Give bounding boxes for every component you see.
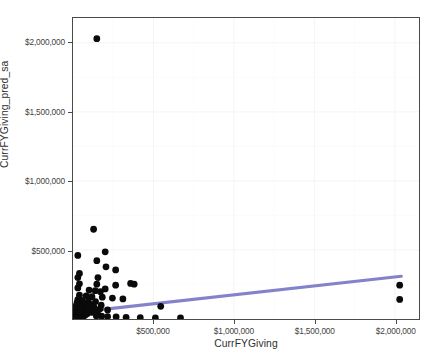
data-point xyxy=(93,257,100,264)
x-tick-mark xyxy=(234,320,235,324)
data-point xyxy=(95,274,102,281)
data-point xyxy=(74,285,81,292)
data-point xyxy=(90,226,97,233)
x-tick-mark xyxy=(396,320,397,324)
data-point xyxy=(102,248,109,255)
x-tick-mark xyxy=(153,320,154,324)
data-point xyxy=(112,267,119,274)
data-point xyxy=(84,303,91,310)
data-point xyxy=(396,282,403,289)
data-point xyxy=(103,263,110,270)
plot-panel xyxy=(72,17,420,320)
x-axis-title: CurrFYGiving xyxy=(214,338,278,349)
data-point xyxy=(86,287,93,294)
data-point xyxy=(177,315,184,320)
scatter-chart: CurrFYGiving_pred_sa CurrFYGiving $500,0… xyxy=(0,0,444,360)
data-point xyxy=(97,305,104,312)
y-axis-title: CurrFYGiving_pred_sa xyxy=(0,61,10,168)
data-point xyxy=(152,314,159,320)
data-point xyxy=(157,303,164,310)
data-point xyxy=(112,282,119,289)
data-point xyxy=(131,281,138,288)
data-point xyxy=(90,303,97,310)
data-point xyxy=(137,314,144,320)
data-point xyxy=(74,252,81,259)
data-point xyxy=(93,281,100,288)
y-tick-label: $1,000,000 xyxy=(25,176,65,186)
data-point xyxy=(93,35,100,42)
y-tick-label: $1,500,000 xyxy=(25,107,65,117)
data-point xyxy=(123,314,130,320)
data-point xyxy=(104,307,111,314)
data-point xyxy=(74,274,81,281)
x-tick-mark xyxy=(315,320,316,324)
data-point xyxy=(120,296,127,303)
x-tick-label: $1,000,000 xyxy=(214,326,254,336)
y-tick-label: $2,000,000 xyxy=(25,37,65,47)
data-points-layer xyxy=(73,18,419,319)
data-point xyxy=(104,313,111,320)
x-tick-label: $500,000 xyxy=(136,326,169,336)
data-point xyxy=(396,296,403,303)
data-point xyxy=(109,295,116,302)
data-point xyxy=(113,313,120,320)
x-tick-label: $1,500,000 xyxy=(295,326,335,336)
y-tick-label: $500,000 xyxy=(32,246,65,256)
data-point xyxy=(99,294,106,301)
x-tick-label: $2,000,000 xyxy=(376,326,416,336)
